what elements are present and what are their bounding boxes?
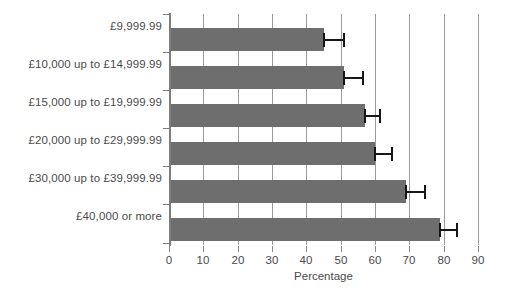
x-axis-tick [203, 246, 204, 252]
x-axis-tick [478, 246, 479, 252]
error-bar-cap-high [391, 147, 393, 161]
error-bar-cap-high [424, 185, 426, 199]
category-label: £30,000 up to £39,999.99 [0, 172, 162, 184]
y-axis-line [169, 13, 171, 246]
error-bar [440, 229, 457, 231]
x-axis-tick [238, 246, 239, 252]
error-bar-cap-high [379, 109, 381, 123]
error-bar [365, 115, 380, 117]
x-axis-tick [169, 246, 170, 252]
bar [169, 142, 375, 165]
bar [169, 66, 344, 89]
gridline [341, 14, 342, 245]
y-axis-tick [163, 128, 169, 129]
bar-chart: £9,999.99 £10,000 up to £14,999.99 £15,0… [0, 0, 508, 291]
bar [169, 104, 365, 127]
y-axis-tick [163, 204, 169, 205]
error-bar-cap-low [439, 223, 441, 237]
category-label: £40,000 or more [0, 210, 162, 222]
error-bar [406, 191, 425, 193]
x-axis-tick-label: 70 [389, 254, 429, 266]
x-axis-tick-label: 40 [286, 254, 326, 266]
error-bar-cap-low [343, 71, 345, 85]
x-axis-tick [341, 246, 342, 252]
error-bar-cap-low [364, 109, 366, 123]
error-bar-cap-high [362, 71, 364, 85]
error-bar-cap-low [405, 185, 407, 199]
category-label: £20,000 up to £29,999.99 [0, 134, 162, 146]
y-axis-tick [163, 90, 169, 91]
category-label: £9,999.99 [0, 20, 162, 32]
x-axis-title: Percentage [169, 270, 478, 282]
error-bar-cap-low [323, 33, 325, 47]
category-label: £15,000 up to £19,999.99 [0, 96, 162, 108]
x-axis-tick-label: 90 [458, 254, 498, 266]
category-label: £10,000 up to £14,999.99 [0, 58, 162, 70]
error-bar [344, 77, 363, 79]
x-axis-tick [409, 246, 410, 252]
plot-area [169, 14, 478, 245]
y-axis-tick [163, 166, 169, 167]
gridline [375, 14, 376, 245]
y-axis-tick [163, 14, 169, 15]
x-axis-tick [375, 246, 376, 252]
y-axis-tick [163, 52, 169, 53]
error-bar-cap-high [456, 223, 458, 237]
error-bar [375, 153, 392, 155]
x-axis-tick [444, 246, 445, 252]
error-bar-cap-high [343, 33, 345, 47]
y-axis-tick [163, 243, 169, 244]
x-axis-tick [272, 246, 273, 252]
x-axis-tick-label: 10 [183, 254, 223, 266]
gridline [409, 14, 410, 245]
bar [169, 28, 324, 51]
bar [169, 218, 440, 241]
gridline [444, 14, 445, 245]
error-bar [324, 39, 345, 41]
gridline [478, 14, 479, 245]
bar [169, 180, 406, 203]
error-bar-cap-low [374, 147, 376, 161]
x-axis-tick [306, 246, 307, 252]
